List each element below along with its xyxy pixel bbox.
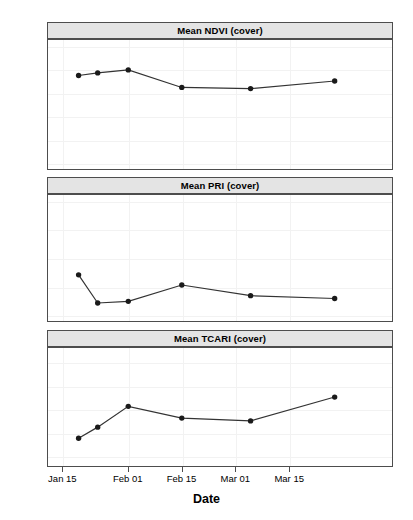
data-point xyxy=(248,293,253,298)
x-axis-label: Feb 01 xyxy=(113,474,143,484)
x-axis-tick xyxy=(62,467,63,472)
panel-title-pri: Mean PRI (cover) xyxy=(48,178,392,193)
series-line-2 xyxy=(48,348,392,466)
panel-mean-tcari: Mean TCARI (cover) 0.080.090.100.110.12 xyxy=(0,330,413,467)
panel-title-tcari: Mean TCARI (cover) xyxy=(48,331,392,346)
plot-area-ndvi: 0.50.60.70.80.91.0 xyxy=(47,39,393,170)
data-point xyxy=(332,296,337,301)
x-axis-label: Mar 15 xyxy=(274,474,304,484)
data-point xyxy=(126,299,131,304)
x-axis-tick xyxy=(128,467,129,472)
plot-area-pri: 0.00-0.05-0.10-0.15-0.20 xyxy=(47,194,393,322)
panel-title-ndvi: Mean NDVI (cover) xyxy=(48,23,392,38)
series-polyline xyxy=(79,275,335,303)
x-axis-title: Date xyxy=(0,492,413,506)
x-axis-label: Feb 15 xyxy=(167,474,197,484)
data-point xyxy=(76,272,81,277)
series-polyline xyxy=(79,397,335,438)
series-polyline xyxy=(79,70,335,89)
data-point xyxy=(95,300,100,305)
data-point xyxy=(76,436,81,441)
panel-strip-header-pri: Mean PRI (cover) xyxy=(47,177,393,194)
series-line-1 xyxy=(48,195,392,321)
data-point xyxy=(248,418,253,423)
data-point xyxy=(126,404,131,409)
plot-area-tcari: 0.080.090.100.110.12 xyxy=(47,347,393,467)
x-axis-tick xyxy=(289,467,290,472)
data-point xyxy=(332,78,337,83)
data-point xyxy=(179,282,184,287)
x-axis-tick xyxy=(235,467,236,472)
trellis-chart-figure: Mean NDVI (cover) 0.50.60.70.80.91.0 Mea… xyxy=(0,0,413,520)
data-point xyxy=(332,394,337,399)
data-point xyxy=(76,73,81,78)
panel-mean-ndvi: Mean NDVI (cover) 0.50.60.70.80.91.0 xyxy=(0,22,413,170)
x-axis-label: Mar 01 xyxy=(221,474,251,484)
panel-strip-header-ndvi: Mean NDVI (cover) xyxy=(47,22,393,39)
panel-mean-pri: Mean PRI (cover) 0.00-0.05-0.10-0.15-0.2… xyxy=(0,177,413,322)
data-point xyxy=(95,70,100,75)
x-axis-label: Jan 15 xyxy=(48,474,77,484)
data-point xyxy=(95,424,100,429)
data-point xyxy=(179,415,184,420)
series-line-0 xyxy=(48,40,392,169)
data-point xyxy=(126,67,131,72)
data-point xyxy=(248,86,253,91)
panel-strip-header-tcari: Mean TCARI (cover) xyxy=(47,330,393,347)
data-point xyxy=(179,85,184,90)
x-axis-tick xyxy=(182,467,183,472)
